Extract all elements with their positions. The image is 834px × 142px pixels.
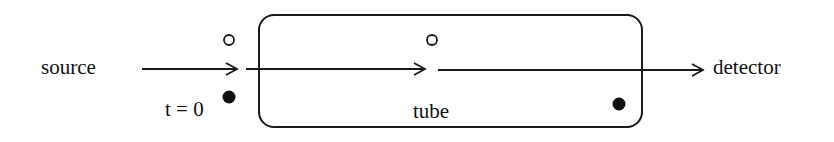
- arrow-inside-tube: [246, 63, 425, 75]
- detector-label: detector: [713, 57, 781, 78]
- tube-box: [259, 15, 642, 127]
- time-label: t = 0: [165, 99, 204, 120]
- source-label: source: [41, 57, 96, 78]
- tube-label: tube: [413, 101, 449, 122]
- filled-circle-entry: [223, 91, 236, 104]
- filled-circle-end: [613, 98, 626, 111]
- open-circle-entry: [224, 35, 234, 45]
- arrow-to-detector: [438, 64, 703, 76]
- arrow-source-to-tube: [142, 63, 237, 75]
- open-circle-mid: [427, 35, 437, 45]
